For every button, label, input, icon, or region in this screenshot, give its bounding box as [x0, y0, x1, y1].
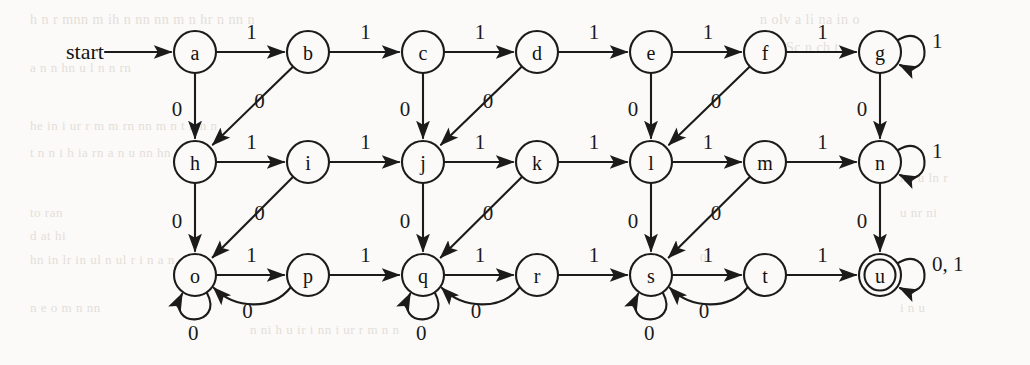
edge-label-m-n: 1 — [817, 132, 828, 153]
state-label-o: o — [190, 266, 200, 286]
state-label-s: s — [647, 266, 655, 286]
edge-label-s-s: 0 — [644, 323, 655, 344]
edge-label-c-j: 0 — [400, 99, 411, 120]
edge-label-b-c: 1 — [360, 22, 371, 43]
edge-label-q-q: 0 — [416, 323, 427, 344]
edge-label-k-q: 0 — [483, 202, 494, 223]
state-label-a: a — [191, 43, 200, 63]
edge-label-j-q: 0 — [400, 210, 411, 231]
state-label-u: u — [875, 266, 885, 286]
edge-label-p-o: 0 — [242, 301, 253, 322]
edge-label-l-m: 1 — [703, 132, 714, 153]
state-label-l: l — [648, 153, 654, 173]
state-label-t: t — [762, 266, 768, 286]
edge-label-k-l: 1 — [589, 132, 600, 153]
edge-label-p-q: 1 — [360, 245, 371, 266]
edge-label-f-g: 1 — [817, 22, 828, 43]
edge-label-m-s: 0 — [711, 202, 722, 223]
state-label-m: m — [757, 153, 773, 173]
state-label-n: n — [875, 153, 885, 173]
edge-label-e-f: 1 — [703, 22, 714, 43]
edge-label-a-b: 1 — [246, 22, 257, 43]
edge-label-g-g: 1 — [932, 31, 943, 52]
state-label-b: b — [303, 43, 313, 63]
edge-label-t-u: 1 — [817, 245, 828, 266]
edge-label-i-j: 1 — [360, 132, 371, 153]
edge-label-e-l: 0 — [628, 99, 639, 120]
state-label-f: f — [762, 43, 769, 63]
edge-label-f-l: 0 — [711, 91, 722, 112]
state-label-p: p — [303, 266, 313, 286]
state-label-i: i — [305, 153, 311, 173]
state-label-q: q — [418, 266, 428, 286]
state-label-c: c — [419, 43, 428, 63]
edge-label-u-u: 0, 1 — [932, 254, 964, 275]
state-label-e: e — [647, 43, 656, 63]
state-label-g: g — [875, 43, 885, 63]
edge-label-g-n: 0 — [857, 99, 868, 120]
edge-label-h-o: 0 — [172, 210, 183, 231]
edge-label-r-s: 1 — [589, 245, 600, 266]
edge-label-i-o: 0 — [254, 202, 265, 223]
edge-label-j-k: 1 — [475, 132, 486, 153]
state-label-r: r — [534, 266, 541, 286]
edge-layer — [105, 36, 925, 319]
edge-label-a-h: 0 — [172, 99, 183, 120]
edge-label-c-d: 1 — [475, 22, 486, 43]
state-label-k: k — [532, 153, 542, 173]
edge-label-d-e: 1 — [589, 22, 600, 43]
state-label-d: d — [532, 43, 542, 63]
start-label: start — [66, 41, 104, 63]
edge-label-o-o: 0 — [188, 323, 199, 344]
edge-label-d-j: 0 — [483, 91, 494, 112]
edge-label-n-u: 0 — [857, 210, 868, 231]
edge-label-b-h: 0 — [254, 91, 265, 112]
edge-label-t-s: 0 — [699, 301, 710, 322]
figure-page: h n r mnn m ih n nn nn m n hr n nn nn ol… — [0, 0, 1030, 365]
state-label-j: j — [420, 153, 426, 173]
edge-label-q-r: 1 — [475, 245, 486, 266]
edge-label-s-t: 1 — [703, 245, 714, 266]
edge-label-r-q: 0 — [471, 301, 482, 322]
edge-label-o-p: 1 — [246, 245, 257, 266]
state-label-h: h — [190, 153, 200, 173]
edge-label-h-i: 1 — [246, 132, 257, 153]
edge-label-n-n: 1 — [932, 141, 943, 162]
edge-label-l-s: 0 — [628, 210, 639, 231]
